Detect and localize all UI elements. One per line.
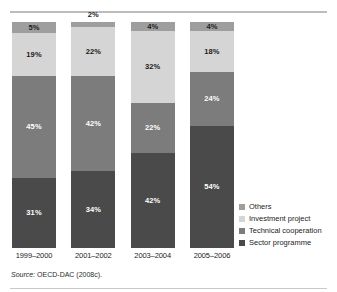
bar-segment-label: 32% xyxy=(145,63,160,71)
legend-swatch-icon xyxy=(239,228,245,234)
bar-slot: 4%32%22%42% xyxy=(131,22,175,248)
figure-rule-bottom xyxy=(10,288,327,289)
source-prefix: Source: xyxy=(11,271,35,278)
stacked-bar-group: 5%19%45%31%2%22%42%34%4%32%22%42%4%18%24… xyxy=(12,22,234,248)
bar-segment-label: 24% xyxy=(204,95,219,103)
legend-swatch-icon xyxy=(239,216,245,222)
bar-segment-label: 4% xyxy=(206,23,217,31)
stacked-bar[interactable]: 4%18%24%54% xyxy=(190,22,234,248)
bar-segment-label: 42% xyxy=(86,120,101,128)
bar-segment-label: 4% xyxy=(147,23,158,31)
legend-item[interactable]: Investment project xyxy=(239,213,335,225)
chart-legend: OthersInvestment projectTechnical cooper… xyxy=(239,201,335,249)
legend-label: Sector programme xyxy=(249,239,311,247)
bar-segment[interactable]: 42% xyxy=(131,153,175,248)
stacked-bar[interactable]: 5%19%45%31% xyxy=(12,22,56,248)
bar-segment-label: 22% xyxy=(86,48,101,56)
bar-segment[interactable]: 19% xyxy=(12,33,56,76)
legend-item[interactable]: Sector programme xyxy=(239,237,335,249)
source-text: OECD-DAC (2008c). xyxy=(37,271,102,278)
bar-segment-label: 18% xyxy=(204,48,219,56)
bar-slot: 4%18%24%54% xyxy=(190,22,234,248)
stacked-bar[interactable]: 2%22%42%34% xyxy=(71,22,115,248)
bar-segment[interactable]: 34% xyxy=(71,171,115,248)
bar-segment-label: 19% xyxy=(26,51,41,59)
bar-segment[interactable]: 22% xyxy=(131,103,175,153)
x-axis-label-2: 2001–2002 xyxy=(71,251,115,260)
source-note: Source: OECD-DAC (2008c). xyxy=(11,271,102,278)
bar-segment-label: 42% xyxy=(145,197,160,205)
bar-segment[interactable]: 32% xyxy=(131,31,175,103)
bar-segment[interactable]: 42% xyxy=(71,76,115,171)
legend-item[interactable]: Others xyxy=(239,201,335,213)
stacked-bar[interactable]: 4%32%22%42% xyxy=(131,22,175,248)
legend-swatch-icon xyxy=(239,240,245,246)
bar-segment[interactable]: 5% xyxy=(12,22,56,33)
bar-segment[interactable]: 24% xyxy=(190,72,234,126)
bar-segment[interactable]: 4% xyxy=(190,22,234,31)
bar-segment[interactable]: 4% xyxy=(131,22,175,31)
bar-segment-label: 31% xyxy=(26,209,41,217)
bar-segment[interactable]: 45% xyxy=(12,76,56,178)
bar-segment[interactable]: 54% xyxy=(190,126,234,248)
legend-swatch-icon xyxy=(239,204,245,210)
bar-segment-label: 5% xyxy=(28,24,39,32)
x-axis-label-1: 1999–2000 xyxy=(12,251,56,260)
figure-container: 5%19%45%31%2%22%42%34%4%32%22%42%4%18%24… xyxy=(0,0,337,292)
bar-segment-label: 34% xyxy=(86,206,101,214)
bar-slot: 2%22%42%34% xyxy=(71,22,115,248)
bar-segment-label: 45% xyxy=(26,123,41,131)
bar-segment[interactable]: 22% xyxy=(71,27,115,77)
bar-segment-label: 2% xyxy=(88,11,99,19)
chart-plot-area: 5%19%45%31%2%22%42%34%4%32%22%42%4%18%24… xyxy=(12,22,234,248)
legend-label: Technical cooperation xyxy=(249,227,322,235)
legend-item[interactable]: Technical cooperation xyxy=(239,225,335,237)
bar-segment[interactable]: 18% xyxy=(190,31,234,72)
bar-slot: 5%19%45%31% xyxy=(12,22,56,248)
figure-rule-top xyxy=(10,11,327,13)
legend-label: Investment project xyxy=(249,215,310,223)
bar-segment-label: 54% xyxy=(204,183,219,191)
x-axis-label-3: 2003–2004 xyxy=(131,251,175,260)
x-axis-label-4: 2005–2006 xyxy=(190,251,234,260)
bar-segment[interactable]: 31% xyxy=(12,178,56,248)
legend-label: Others xyxy=(249,203,272,211)
x-axis-labels: 1999–20002001–20022003–20042005–2006 xyxy=(12,251,234,260)
bar-segment-label: 22% xyxy=(145,124,160,132)
caption-remnant xyxy=(10,0,130,6)
